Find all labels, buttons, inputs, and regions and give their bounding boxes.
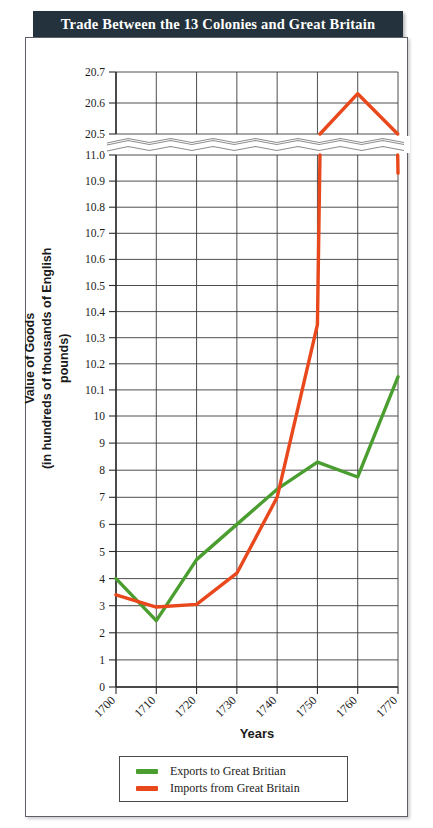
chart-frame <box>25 37 408 817</box>
legend-swatch-imports <box>136 786 158 791</box>
y-axis-title-line1: Value of Goods <box>22 233 39 483</box>
legend-swatch-exports <box>136 769 158 774</box>
y-axis-title: Value of Goods (in hundreds of thousands… <box>22 233 73 483</box>
legend-label-exports: Exports to Great Britian <box>170 764 286 779</box>
legend-item-imports: Imports from Great Britain <box>136 780 347 797</box>
legend-item-exports: Exports to Great Britian <box>136 763 347 780</box>
chart-legend: Exports to Great Britian Imports from Gr… <box>119 756 348 802</box>
y-axis-title-line2: (in hundreds of thousands of English pou… <box>39 233 73 483</box>
x-axis-title: Years <box>116 726 398 741</box>
chart-title-banner: Trade Between the 13 Colonies and Great … <box>33 11 403 38</box>
legend-label-imports: Imports from Great Britain <box>170 781 300 796</box>
